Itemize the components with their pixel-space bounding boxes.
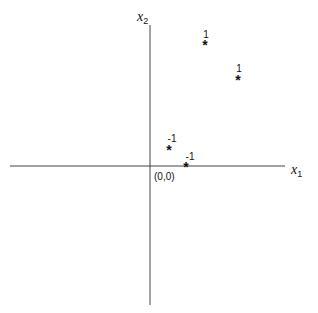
- data-point-positive-1: * 1: [202, 29, 209, 53]
- point-class-label: 1: [203, 29, 209, 40]
- asterisk-marker-icon: *: [166, 142, 172, 158]
- data-point-negative-2: * -1: [183, 151, 195, 175]
- point-class-label: -1: [186, 151, 195, 162]
- point-class-label: 1: [236, 63, 242, 74]
- data-point-negative-1: * -1: [166, 133, 177, 158]
- coordinate-diagram: x2 x1 (0,0) * 1 * 1 * -1 * -1: [0, 0, 318, 313]
- data-point-positive-2: * 1: [235, 63, 242, 88]
- asterisk-marker-icon: *: [235, 72, 241, 88]
- origin-label: (0,0): [154, 171, 175, 182]
- point-class-label: -1: [168, 133, 177, 144]
- x2-axis-label: x2: [136, 9, 148, 26]
- x1-axis-label: x1: [290, 162, 302, 179]
